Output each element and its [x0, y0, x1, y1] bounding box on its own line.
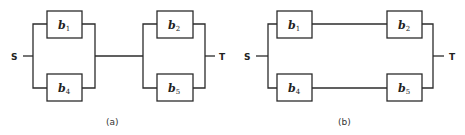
block-b-b4: b4	[277, 74, 312, 101]
sink-label-b: T	[449, 52, 456, 62]
left-bus-b	[268, 24, 277, 88]
right-bus-b	[422, 24, 433, 88]
caption-a: (a)	[106, 117, 119, 127]
diagram-a: S T b1 b4 b2 b5 (a)	[11, 11, 226, 127]
block-b-b5: b5	[387, 74, 422, 101]
block-b-b1: b1	[277, 11, 312, 38]
block-a-b5: b5	[157, 74, 193, 101]
left-bus-a1	[33, 24, 47, 88]
block-b-b2: b2	[387, 11, 422, 38]
left-bus-a2	[143, 24, 157, 88]
source-label-a: S	[11, 52, 17, 62]
source-label-b: S	[244, 52, 250, 62]
right-bus-a2	[193, 24, 205, 88]
diagram-b: S T b1 b4 b2 b5 (b)	[244, 11, 456, 127]
right-bus-a1	[82, 24, 95, 88]
block-a-b2: b2	[157, 11, 193, 38]
reliability-block-diagrams: S T b1 b4 b2 b5 (a) S	[0, 0, 465, 135]
caption-b: (b)	[338, 117, 351, 127]
block-a-b4: b4	[47, 74, 82, 101]
sink-label-a: T	[219, 52, 226, 62]
block-a-b1: b1	[47, 11, 82, 38]
